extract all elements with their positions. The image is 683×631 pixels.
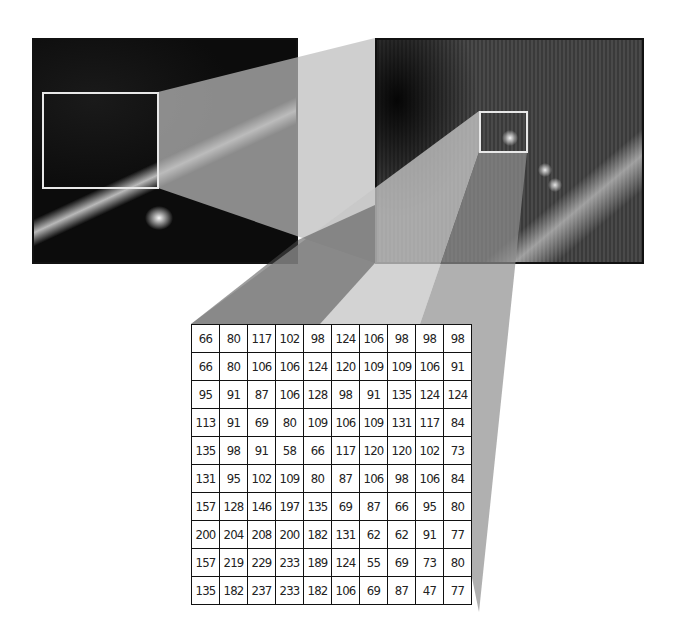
zoom-cascade-figure: 6680117102981241069898986680106106124120… (0, 0, 683, 631)
pixel-value-cell: 109 (388, 353, 416, 381)
pixel-value-cell: 124 (332, 325, 360, 353)
grid-row: 1571281461971356987669580 (192, 493, 472, 521)
pixel-value-cell: 102 (248, 465, 276, 493)
pixel-value-cell: 91 (220, 409, 248, 437)
pixel-value-cell: 106 (276, 353, 304, 381)
pixel-value-cell: 80 (444, 549, 472, 577)
pixel-value-cell: 135 (192, 577, 220, 605)
grid-row: 1319510210980871069810684 (192, 465, 472, 493)
pixel-value-cell: 219 (220, 549, 248, 577)
zoom-region-left (42, 92, 159, 189)
pixel-value-cell: 182 (304, 577, 332, 605)
pixel-value-cell: 157 (192, 549, 220, 577)
pixel-value-cell: 102 (416, 437, 444, 465)
pixel-value-cell: 66 (192, 353, 220, 381)
grid-row: 13518223723318210669874777 (192, 577, 472, 605)
pixel-value-cell: 109 (360, 353, 388, 381)
pixel-value-cell: 204 (220, 521, 248, 549)
pixel-value-cell: 84 (444, 465, 472, 493)
pixel-value-cell: 66 (304, 437, 332, 465)
pixel-value-cell: 200 (276, 521, 304, 549)
pixel-value-cell: 117 (248, 325, 276, 353)
pixel-value-cell: 66 (388, 493, 416, 521)
pixel-value-cell: 87 (360, 493, 388, 521)
pixel-value-grid: 6680117102981241069898986680106106124120… (191, 324, 472, 605)
pixel-value-cell: 120 (332, 353, 360, 381)
pixel-value-cell: 98 (304, 325, 332, 353)
pixel-value-cell: 109 (276, 465, 304, 493)
pixel-value-cell: 98 (416, 325, 444, 353)
pixel-value-cell: 124 (304, 353, 332, 381)
pixel-value-cell: 106 (360, 325, 388, 353)
pixel-value-cell: 69 (248, 409, 276, 437)
pixel-value-cell: 106 (416, 353, 444, 381)
pixel-value-cell: 91 (248, 437, 276, 465)
pixel-value-cell: 233 (276, 577, 304, 605)
pixel-value-cell: 135 (388, 381, 416, 409)
zoom-region-right (479, 111, 528, 153)
pixel-value-cell: 124 (444, 381, 472, 409)
pixel-value-cell: 117 (332, 437, 360, 465)
pixel-value-cell: 106 (360, 465, 388, 493)
pixel-value-cell: 62 (388, 521, 416, 549)
pixel-value-cell: 87 (388, 577, 416, 605)
grid-row: 668011710298124106989898 (192, 325, 472, 353)
pixel-value-cell: 69 (388, 549, 416, 577)
pixel-value-cell: 80 (304, 465, 332, 493)
pixel-value-cell: 87 (332, 465, 360, 493)
pixel-value-cell: 189 (304, 549, 332, 577)
pixel-value-cell: 98 (332, 381, 360, 409)
pixel-value-cell: 109 (304, 409, 332, 437)
pixel-value-cell: 197 (276, 493, 304, 521)
pixel-value-cell: 233 (276, 549, 304, 577)
pixel-value-cell: 146 (248, 493, 276, 521)
pixel-value-cell: 106 (248, 353, 276, 381)
pixel-value-cell: 208 (248, 521, 276, 549)
pixel-value-cell: 113 (192, 409, 220, 437)
pixel-value-cell: 95 (192, 381, 220, 409)
pixel-value-cell: 91 (220, 381, 248, 409)
pixel-value-cell: 73 (444, 437, 472, 465)
pixel-value-cell: 55 (360, 549, 388, 577)
pixel-value-cell: 98 (388, 465, 416, 493)
pixel-value-cell: 80 (220, 325, 248, 353)
pixel-value-cell: 128 (220, 493, 248, 521)
pixel-value-cell: 62 (360, 521, 388, 549)
pixel-value-cell: 124 (332, 549, 360, 577)
pixel-value-cell: 131 (332, 521, 360, 549)
pixel-value-cell: 157 (192, 493, 220, 521)
pixel-value-cell: 77 (444, 577, 472, 605)
pixel-value-cell: 80 (220, 353, 248, 381)
pixel-value-cell: 109 (360, 409, 388, 437)
pixel-value-cell: 80 (276, 409, 304, 437)
pixel-value-cell: 128 (304, 381, 332, 409)
pixel-value-cell: 91 (444, 353, 472, 381)
pixel-value-cell: 77 (444, 521, 472, 549)
pixel-value-cell: 106 (416, 465, 444, 493)
pixel-value-cell: 237 (248, 577, 276, 605)
pixel-value-cell: 98 (220, 437, 248, 465)
pixel-value-cell: 117 (416, 409, 444, 437)
pixel-value-cell: 106 (276, 381, 304, 409)
pixel-value-cell: 69 (332, 493, 360, 521)
pixel-value-cell: 120 (360, 437, 388, 465)
pixel-value-cell: 200 (192, 521, 220, 549)
grid-row: 1359891586611712012010273 (192, 437, 472, 465)
pixel-value-cell: 80 (444, 493, 472, 521)
pixel-value-cell: 124 (416, 381, 444, 409)
pixel-value-cell: 73 (416, 549, 444, 577)
pixel-value-cell: 106 (332, 577, 360, 605)
pixel-value-cell: 135 (304, 493, 332, 521)
pixel-value-cell: 182 (304, 521, 332, 549)
pixel-value-cell: 47 (416, 577, 444, 605)
pixel-value-cell: 91 (416, 521, 444, 549)
pixel-value-cell: 120 (388, 437, 416, 465)
pixel-value-cell: 84 (444, 409, 472, 437)
pixel-value-cell: 91 (360, 381, 388, 409)
pixel-value-cell: 106 (332, 409, 360, 437)
pixel-value-cell: 135 (192, 437, 220, 465)
grid-row: 9591871061289891135124124 (192, 381, 472, 409)
pixel-value-cell: 58 (276, 437, 304, 465)
pixel-value-cell: 98 (444, 325, 472, 353)
pixel-value-cell: 69 (360, 577, 388, 605)
